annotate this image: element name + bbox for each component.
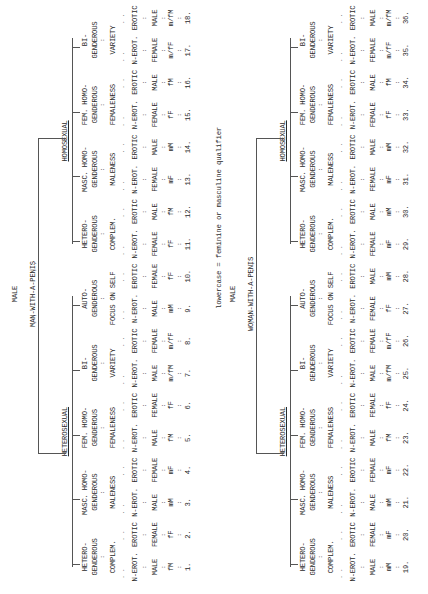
leaf-sex: FEMALE (152, 38, 159, 63)
leaf-number: 26. (403, 335, 410, 347)
dotted-connector: . . (338, 531, 344, 541)
dotted-connector: : (177, 243, 183, 246)
dotted-connector: . . (338, 310, 344, 320)
group-label-line1: HETERO- (300, 219, 307, 248)
leaf-code: mF (386, 240, 393, 248)
dotted-connector: : (142, 372, 148, 375)
dotted-connector: : (360, 566, 366, 569)
leaf-sex: FEMALE (152, 393, 159, 418)
connector-line (72, 47, 80, 48)
leaf-mode: EROTIC (132, 135, 139, 160)
dotted-connector: . . (120, 208, 126, 218)
branch-label-homosexual: HOMOSEXUAL (280, 120, 287, 161)
leaf-number: 12. (185, 206, 192, 218)
leaf-mode: EROTIC (350, 329, 357, 354)
dotted-connector: : (318, 426, 324, 429)
dotted-connector: . . (120, 246, 126, 256)
dotted-connector: : (100, 168, 106, 171)
leaf-code: m/fF (168, 42, 175, 58)
leaf-mode: EROTIC (132, 522, 139, 547)
connector-line (290, 564, 298, 565)
leaf-mode: N-EROT. (132, 100, 139, 129)
leaf-mode: N-EROT. (350, 36, 357, 65)
dotted-connector: . . (120, 181, 126, 191)
leaf-mode: EROTIC (132, 329, 139, 354)
leaf-number: 27. (403, 302, 410, 314)
connector-line (256, 294, 257, 454)
leaf-number: 16. (185, 76, 192, 88)
leaf-mode: N-EROT. (132, 488, 139, 517)
dotted-connector: . . (338, 272, 344, 282)
dotted-connector: : (395, 210, 401, 213)
leaf-sex: FEMALE (152, 264, 159, 289)
connector-line (72, 176, 80, 177)
leaf-number: 13. (185, 173, 192, 185)
group-descriptor: FEMALENESS (328, 84, 335, 125)
connector-line (290, 241, 298, 242)
connector-line (256, 453, 284, 454)
group-descriptor: FEMALENESS (110, 84, 117, 125)
leaf-mode: N-EROT. (350, 230, 357, 259)
dotted-connector: . . (338, 439, 344, 449)
leaf-code: mM (386, 563, 393, 571)
dotted-connector: . . (120, 143, 126, 153)
leaf-sex: FEMALE (370, 393, 377, 418)
group-descriptor: VARIETY (328, 26, 335, 55)
dotted-connector: : (100, 39, 106, 42)
dotted-connector: . . (120, 569, 126, 579)
leaf-mode: N-EROT. (132, 294, 139, 323)
dotted-connector: . . (120, 78, 126, 88)
dotted-connector: . . (338, 78, 344, 88)
leaf-mode: EROTIC (132, 6, 139, 31)
dotted-connector: : (360, 49, 366, 52)
leaf-sex: MALE (370, 268, 377, 284)
dotted-connector: : (177, 307, 183, 310)
leaf-mode: N-EROT. (350, 165, 357, 194)
leaf-sex: FEMALE (152, 458, 159, 483)
leaf-sex: MALE (152, 365, 159, 381)
leaf-sex: FEMALE (152, 522, 159, 547)
leaf-mode: EROTIC (350, 264, 357, 289)
leaf-mode: N-EROT. (350, 294, 357, 323)
dotted-connector: : (177, 210, 183, 213)
group-descriptor: FOCUS ON SELF (328, 272, 335, 325)
leaf-code: mF (168, 175, 175, 183)
dotted-connector: : (395, 436, 401, 439)
dotted-connector: : (318, 491, 324, 494)
group-descriptor: COMPLEM. (328, 540, 335, 573)
leaf-number: 36. (403, 12, 410, 24)
connector-line (290, 370, 298, 371)
dotted-connector: : (142, 178, 148, 181)
group-descriptor: MALENESS (110, 476, 117, 509)
leaf-code: m/fF (386, 42, 393, 58)
group-descriptor: VARIETY (328, 349, 335, 378)
dotted-connector: : (142, 501, 148, 504)
rotated-document-page: MALEMAN-WITH-A-PENIS. .. .HETEROSEXUALHE… (0, 0, 428, 594)
leaf-mode: N-EROT. (132, 165, 139, 194)
dotted-connector: : (100, 362, 106, 365)
leaf-code: fM (386, 434, 393, 442)
dotted-connector: : (177, 146, 183, 149)
connector-line (290, 176, 298, 177)
root-label: MALE (12, 286, 19, 302)
dotted-connector: : (100, 491, 106, 494)
leaf-sex: MALE (370, 494, 377, 510)
leaf-number: 15. (185, 109, 192, 121)
leaf-code: m/fM (168, 10, 175, 26)
dotted-connector: : (395, 81, 401, 84)
leaf-code: mM (386, 272, 393, 280)
dotted-connector: : (395, 404, 401, 407)
connector-line (72, 370, 80, 371)
dotted-connector: . . (120, 375, 126, 385)
leaf-code: m/fF (386, 333, 393, 349)
leaf-sex: FEMALE (152, 167, 159, 192)
leaf-code: mF (386, 466, 393, 474)
leaf-mode: EROTIC (132, 70, 139, 95)
group-descriptor: VARIETY (110, 26, 117, 55)
dotted-connector: : (142, 210, 148, 213)
dotted-connector: : (100, 426, 106, 429)
dotted-connector: . . (338, 246, 344, 256)
dotted-connector: : (395, 49, 401, 52)
dotted-connector: : (360, 469, 366, 472)
dotted-connector: . . (338, 181, 344, 191)
